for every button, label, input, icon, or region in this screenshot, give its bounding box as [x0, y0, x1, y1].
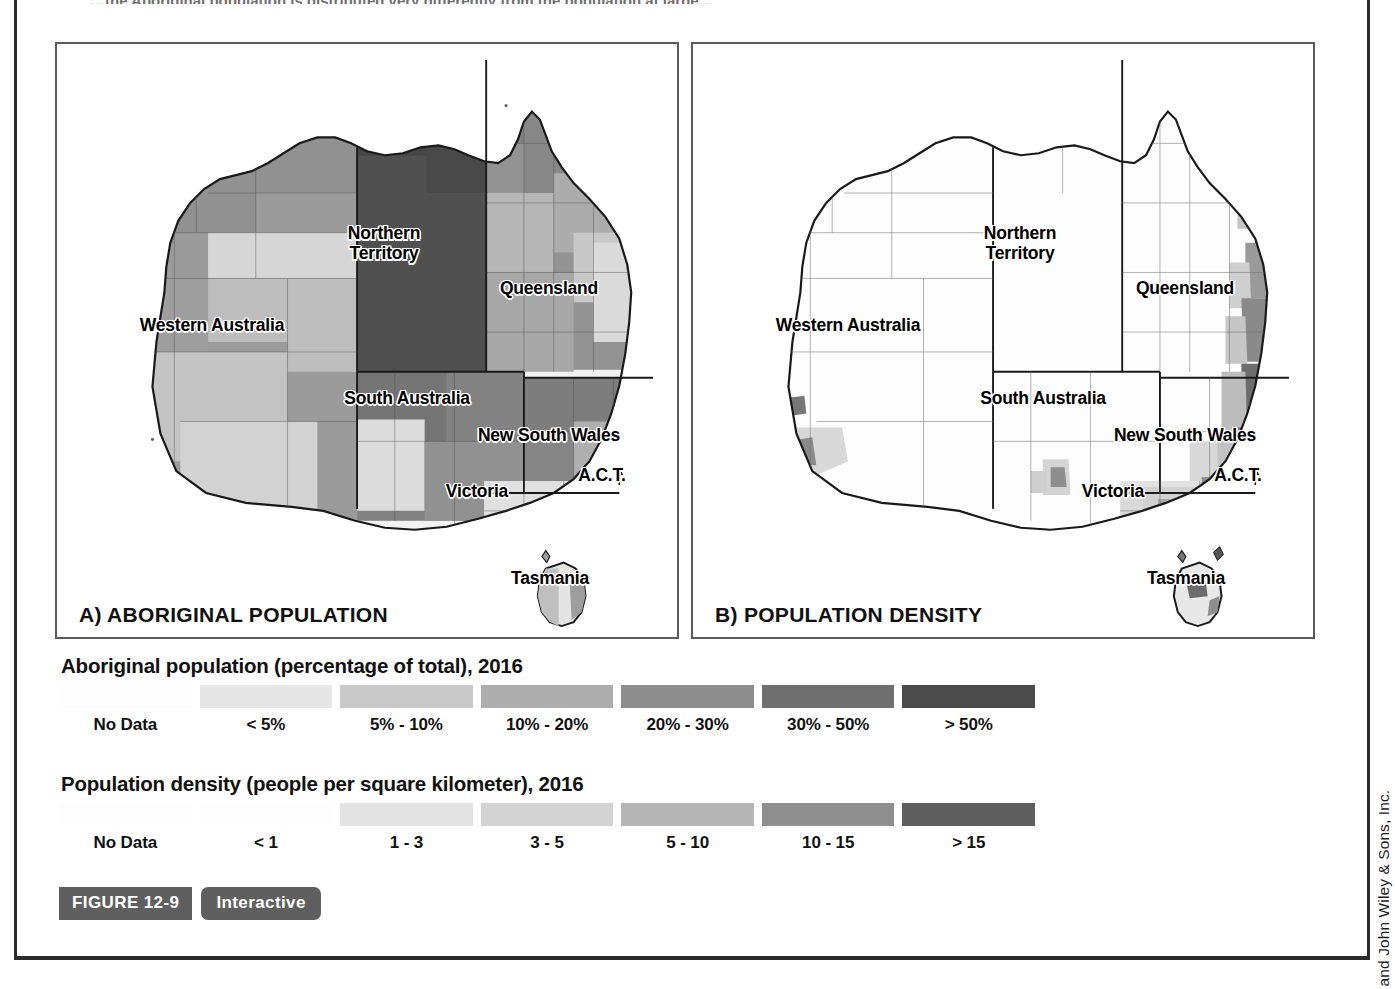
offshore-dot — [151, 438, 154, 441]
map-label-queensland: Queensland — [1136, 279, 1234, 299]
legend-1-cell-2[interactable]: 5% - 10% — [340, 685, 473, 735]
map-label-victoria: Victoria — [1082, 482, 1144, 502]
legend-2-swatch-4 — [621, 803, 754, 826]
legend-1-cell-6[interactable]: > 50% — [902, 685, 1035, 735]
figure-tag-row: FIGURE 12-9 Interactive — [59, 887, 321, 920]
legend-1-label-1: < 5% — [200, 715, 333, 735]
legend-1-swatch-1 — [200, 685, 333, 708]
legend-2-swatch-1 — [200, 803, 333, 826]
legend-1-title: Aboriginal population (percentage of tot… — [61, 654, 1059, 678]
legend-1-label-0: No Data — [59, 715, 192, 735]
map-label-tasmania: Tasmania — [1147, 569, 1225, 589]
figure-12-9: A) ABORIGINAL POPULATION NorthernTerrito… — [55, 42, 1303, 922]
map-label-western-australia: Western Australia — [776, 316, 920, 336]
legend-1-cell-5[interactable]: 30% - 50% — [762, 685, 895, 735]
interactive-button[interactable]: Interactive — [201, 887, 320, 920]
legend-1-swatch-5 — [762, 685, 895, 708]
legend-1-label-4: 20% - 30% — [621, 715, 754, 735]
legend-aboriginal-population: Aboriginal population (percentage of tot… — [59, 654, 1059, 735]
legend-2-label-4: 5 - 10 — [621, 833, 754, 853]
legend-2-cell-0[interactable]: No Data — [59, 803, 192, 853]
map-label-new-south-wales: New South Wales — [1114, 426, 1256, 446]
legend-1-label-2: 5% - 10% — [340, 715, 473, 735]
legend-2-ramp: No Data < 1 1 - 3 3 - 5 5 - 10 10 - 15 — [59, 803, 1035, 853]
legend-2-cell-6[interactable]: > 15 — [902, 803, 1035, 853]
clipped-body-text: …the Aboriginal population is distribute… — [90, 0, 1090, 4]
australia-choropleth-population-density — [693, 44, 1313, 637]
legend-2-label-1: < 1 — [200, 833, 333, 853]
figure-number-tag: FIGURE 12-9 — [59, 887, 192, 920]
legend-2-swatch-2 — [340, 803, 473, 826]
panel-b-caption: B) POPULATION DENSITY — [715, 603, 982, 627]
legend-1-label-6: > 50% — [902, 715, 1035, 735]
legend-population-density: Population density (people per square ki… — [59, 772, 1059, 853]
copyright-credit: © J. Nijman, M. Shin, P. O. Muller, and … — [1375, 790, 1393, 989]
map-panel-aboriginal-population[interactable]: A) ABORIGINAL POPULATION NorthernTerrito… — [55, 42, 679, 639]
legend-2-swatch-3 — [481, 803, 614, 826]
legend-2-title: Population density (people per square ki… — [61, 772, 1059, 796]
map-label-a-c-t: A.C.T. — [578, 466, 625, 486]
map-label-a-c-t: A.C.T. — [1214, 466, 1261, 486]
legend-1-cell-0[interactable]: No Data — [59, 685, 192, 735]
legend-2-cell-4[interactable]: 5 - 10 — [621, 803, 754, 853]
legend-2-label-3: 3 - 5 — [481, 833, 614, 853]
map-label-south-australia: South Australia — [344, 389, 470, 409]
legend-2-label-2: 1 - 3 — [340, 833, 473, 853]
map-label-northern-territory: NorthernTerritory — [984, 224, 1056, 263]
legend-1-swatch-6 — [902, 685, 1035, 708]
map-label-western-australia: Western Australia — [140, 316, 284, 336]
legend-2-swatch-0 — [59, 803, 192, 826]
legend-1-swatch-4 — [621, 685, 754, 708]
map-label-northern-territory: NorthernTerritory — [348, 224, 420, 263]
map-panel-population-density[interactable]: B) POPULATION DENSITY NorthernTerritoryQ… — [691, 42, 1315, 639]
legend-2-swatch-6 — [902, 803, 1035, 826]
legend-2-swatch-5 — [762, 803, 895, 826]
australia-choropleth-aboriginal-population — [57, 44, 677, 637]
legend-2-cell-1[interactable]: < 1 — [200, 803, 333, 853]
legend-1-ramp: No Data < 5% 5% - 10% 10% - 20% 20% - 30… — [59, 685, 1035, 735]
legend-1-swatch-2 — [340, 685, 473, 708]
legend-1-cell-3[interactable]: 10% - 20% — [481, 685, 614, 735]
panel-a-caption: A) ABORIGINAL POPULATION — [79, 603, 388, 627]
legend-1-swatch-3 — [481, 685, 614, 708]
map-label-queensland: Queensland — [500, 279, 598, 299]
map-label-tasmania: Tasmania — [511, 569, 589, 589]
legend-2-cell-5[interactable]: 10 - 15 — [762, 803, 895, 853]
offshore-dot — [504, 104, 507, 107]
legend-2-cell-2[interactable]: 1 - 3 — [340, 803, 473, 853]
map-label-victoria: Victoria — [446, 482, 508, 502]
legend-1-label-5: 30% - 50% — [762, 715, 895, 735]
legend-1-cell-1[interactable]: < 5% — [200, 685, 333, 735]
map-label-south-australia: South Australia — [980, 389, 1106, 409]
legend-2-label-5: 10 - 15 — [762, 833, 895, 853]
legend-1-swatch-0 — [59, 685, 192, 708]
legend-2-cell-3[interactable]: 3 - 5 — [481, 803, 614, 853]
legend-2-label-6: > 15 — [902, 833, 1035, 853]
legend-1-cell-4[interactable]: 20% - 30% — [621, 685, 754, 735]
map-label-new-south-wales: New South Wales — [478, 426, 620, 446]
legend-2-label-0: No Data — [59, 833, 192, 853]
legend-1-label-3: 10% - 20% — [481, 715, 614, 735]
